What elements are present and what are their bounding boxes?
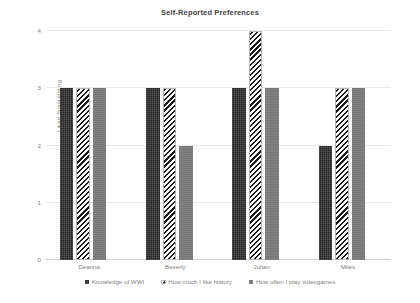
bar-beverly-series-2[interactable]	[179, 146, 193, 261]
bar-group-miles	[305, 31, 391, 260]
plot-area: 01234	[46, 31, 391, 260]
chart-title: Self-Reported Preferences	[0, 8, 420, 17]
x-category-label-miles: Miles	[305, 263, 391, 270]
bar-deanna-series-1[interactable]	[76, 88, 90, 260]
bar-julian-series-2[interactable]	[265, 88, 279, 260]
x-category-label-beverly: Beverly	[132, 263, 218, 270]
y-tick-label-1: 1	[38, 198, 41, 205]
legend-swatch-icon-1	[161, 280, 166, 285]
x-category-label-julian: Julian	[219, 263, 305, 270]
y-tick-label-0: 0	[38, 256, 41, 263]
bar-deanna-series-0[interactable]	[60, 88, 74, 260]
bar-miles-series-2[interactable]	[352, 88, 366, 260]
bar-group-beverly	[132, 31, 218, 260]
bar-group-deanna	[46, 31, 132, 260]
x-category-label-deanna: Deanna	[46, 263, 132, 270]
legend-swatch-icon-2	[249, 280, 254, 285]
bar-beverly-series-0[interactable]	[146, 88, 160, 260]
legend-label-1: How much I like history	[168, 279, 232, 285]
y-tick-label-2: 2	[38, 141, 41, 148]
bar-beverly-series-1[interactable]	[163, 88, 177, 260]
legend-item-1[interactable]: How much I like history	[161, 279, 232, 285]
legend-item-2[interactable]: How often I play videogames	[249, 279, 335, 285]
bar-julian-series-0[interactable]	[232, 88, 246, 260]
y-tick-label-4: 4	[38, 27, 41, 34]
legend-swatch-icon-0	[85, 280, 90, 285]
legend-label-0: Knowledge of WWI	[92, 279, 145, 285]
legend-label-2: How often I play videogames	[256, 279, 335, 285]
chart-legend: Knowledge of WWIHow much I like historyH…	[0, 279, 420, 285]
bar-miles-series-0[interactable]	[319, 146, 333, 261]
chart-container: Self-Reported Preferences Likert Scale R…	[0, 0, 420, 303]
bar-miles-series-1[interactable]	[335, 88, 349, 260]
bar-deanna-series-2[interactable]	[93, 88, 107, 260]
bar-group-julian	[219, 31, 305, 260]
legend-item-0[interactable]: Knowledge of WWI	[85, 279, 145, 285]
bar-julian-series-1[interactable]	[249, 31, 263, 260]
y-tick-label-3: 3	[38, 84, 41, 91]
